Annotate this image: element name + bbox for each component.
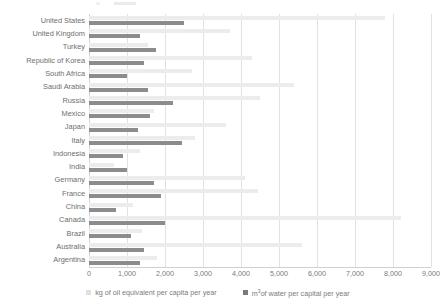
legend-label-oil: kg of oil equivalent per capita per year xyxy=(95,288,216,297)
bar-row xyxy=(89,81,431,94)
bar-row xyxy=(89,121,431,134)
category-label: Italy xyxy=(0,137,85,145)
bar-water xyxy=(89,21,184,25)
category-axis-labels: United StatesUnited KingdomTurkeyRepubli… xyxy=(0,14,85,267)
bar-oil xyxy=(89,109,154,113)
x-tick-label: 8,000 xyxy=(384,269,402,278)
bar-row xyxy=(89,174,431,187)
x-axis-tick-labels: 01,0002,0003,0004,0005,0006,0007,0008,00… xyxy=(89,269,431,281)
bar-water xyxy=(89,48,156,52)
bar-water xyxy=(89,88,148,92)
bar-oil xyxy=(89,136,195,140)
bar-row xyxy=(89,200,431,213)
category-label: Australia xyxy=(0,243,85,251)
bar-oil xyxy=(89,56,252,60)
category-label: Indonesia xyxy=(0,150,85,158)
bar-oil xyxy=(89,123,226,127)
bar-oil xyxy=(89,229,142,233)
category-label: Mexico xyxy=(0,110,85,118)
bar-row xyxy=(89,41,431,54)
bar-water xyxy=(89,114,150,118)
legend-label-water: m3of water per capital per year xyxy=(252,287,350,298)
legend-item-water: m3of water per capital per year xyxy=(243,287,350,298)
category-label: India xyxy=(0,163,85,171)
category-label: Saudi Arabia xyxy=(0,83,85,91)
x-tick-label: 0 xyxy=(87,269,91,278)
bar-oil xyxy=(89,149,140,153)
bar-water xyxy=(89,154,123,158)
bar-row xyxy=(89,67,431,80)
category-label: Japan xyxy=(0,123,85,131)
bar-oil xyxy=(89,203,133,207)
bar-row xyxy=(89,254,431,267)
legend-swatch-water-icon xyxy=(243,290,248,295)
bar-water xyxy=(89,101,173,105)
bar-oil xyxy=(89,243,302,247)
bar-row xyxy=(89,227,431,240)
category-label: Germany xyxy=(0,176,85,184)
x-tick-label: 7,000 xyxy=(346,269,364,278)
bar-oil xyxy=(89,216,401,220)
x-tick-label: 3,000 xyxy=(194,269,212,278)
bar-oil xyxy=(89,16,385,20)
category-label: South Africa xyxy=(0,70,85,78)
bar-water xyxy=(89,221,165,225)
gridline-9000 xyxy=(431,14,432,267)
category-label: Argentina xyxy=(0,256,85,264)
x-tick-label: 2,000 xyxy=(156,269,174,278)
bar-oil xyxy=(89,189,258,193)
bar-oil xyxy=(89,96,260,100)
bar-row xyxy=(89,147,431,160)
x-axis-line xyxy=(89,267,431,268)
plot-area xyxy=(89,14,431,267)
bar-oil xyxy=(89,256,157,260)
bar-row xyxy=(89,214,431,227)
x-tick-label: 6,000 xyxy=(308,269,326,278)
category-label: United Kingdom xyxy=(0,30,85,38)
bar-water xyxy=(89,248,144,252)
x-tick-label: 1,000 xyxy=(118,269,136,278)
bar-row xyxy=(89,54,431,67)
bar-row xyxy=(89,240,431,253)
bar-oil xyxy=(89,176,245,180)
category-label: Russia xyxy=(0,97,85,105)
x-tick-label: 9,000 xyxy=(422,269,440,278)
chart-legend: kg of oil equivalent per capita per year… xyxy=(0,287,436,298)
bar-oil xyxy=(89,163,114,167)
category-label: United States xyxy=(0,17,85,25)
cropped-top-artifact xyxy=(96,0,136,5)
bar-row xyxy=(89,14,431,27)
bar-water xyxy=(89,34,140,38)
bar-row xyxy=(89,187,431,200)
bar-water xyxy=(89,168,127,172)
bar-water xyxy=(89,74,127,78)
legend-label-water-suffix: of water per capital per year xyxy=(261,289,350,298)
bar-water xyxy=(89,208,116,212)
category-label: Canada xyxy=(0,216,85,224)
bar-oil xyxy=(89,69,192,73)
x-tick-label: 4,000 xyxy=(232,269,250,278)
bar-oil xyxy=(89,43,148,47)
category-label: France xyxy=(0,190,85,198)
bar-water xyxy=(89,128,138,132)
bar-water xyxy=(89,141,182,145)
category-label: Turkey xyxy=(0,43,85,51)
bar-water xyxy=(89,61,144,65)
bar-water xyxy=(89,234,131,238)
bar-row xyxy=(89,27,431,40)
bar-rows xyxy=(89,14,431,267)
category-label: Republic of Korea xyxy=(0,57,85,65)
category-label: Brazil xyxy=(0,230,85,238)
bar-row xyxy=(89,160,431,173)
bar-row xyxy=(89,107,431,120)
x-tick-label: 5,000 xyxy=(270,269,288,278)
bar-water xyxy=(89,261,140,265)
category-label: China xyxy=(0,203,85,211)
bar-water xyxy=(89,194,161,198)
bar-water xyxy=(89,181,154,185)
bar-row xyxy=(89,134,431,147)
bar-oil xyxy=(89,29,230,33)
bar-oil xyxy=(89,83,294,87)
legend-swatch-oil-icon xyxy=(86,290,91,295)
